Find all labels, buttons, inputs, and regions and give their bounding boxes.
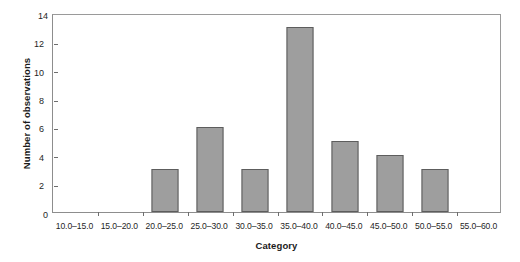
y-axis-tick-label: 4 [39,153,49,163]
y-axis-tick: 4 [39,148,53,166]
x-axis-tick-mark [143,212,144,216]
x-axis-tick-mark [278,212,279,216]
x-axis-tick-label: 20.0–25.0 [146,221,183,231]
bar [286,27,313,212]
y-axis-tick: 8 [39,91,53,109]
y-axis-tick-mark [54,72,58,73]
y-axis-tick-mark [54,44,58,45]
x-axis-tick-label: 40.0–45.0 [325,221,362,231]
x-axis-tick-label: 30.0–35.0 [235,221,272,231]
y-axis-tick-mark [54,129,58,130]
bar [197,127,224,212]
y-axis-tick: 12 [34,34,53,52]
plot-area: 02468101214 [52,14,501,213]
y-axis-tick: 10 [34,63,53,81]
x-axis-tick-mark [412,212,413,216]
bar [376,155,403,212]
x-axis-title: Category [52,240,501,251]
y-axis-tick: 14 [38,6,53,24]
y-axis-tick-mark [54,157,58,158]
x-axis-tick-label: 55.0–60.0 [460,221,497,231]
y-axis-tick-label: 8 [39,96,49,106]
y-axis-tick: 0 [43,205,53,223]
x-axis-tick-label: 25.0–30.0 [190,221,227,231]
y-axis-tick-label: 12 [34,39,49,49]
y-axis-tick-label: 2 [39,181,49,191]
x-axis-tick-label: 45.0–50.0 [370,221,407,231]
bars-layer [53,15,500,212]
y-axis-tick-label: 14 [38,11,53,21]
x-axis-tick-mark [367,212,368,216]
y-axis-title: Number of observations [21,34,32,194]
bar [421,169,448,212]
x-axis-tick-mark [457,212,458,216]
x-axis-tick-label: 10.0–15.0 [56,221,93,231]
x-axis-tick-label: 35.0–40.0 [280,221,317,231]
y-axis-tick-label: 10 [34,68,49,78]
x-axis-tick-label: 50.0–55.0 [415,221,452,231]
y-axis-tick-label: 6 [39,124,49,134]
y-axis-tick: 6 [39,120,53,138]
x-axis-tick-mark [188,212,189,216]
x-axis-tick-mark [233,212,234,216]
bar [331,141,358,212]
x-axis-tick-mark [98,212,99,216]
x-axis-tick-label: 15.0–20.0 [101,221,138,231]
y-axis-tick-label: 0 [43,210,53,220]
bar [152,169,179,212]
y-axis-tick: 2 [39,177,53,195]
x-axis-tick-mark [322,212,323,216]
bar [242,169,269,212]
histogram-chart: Number of observations 02468101214 10.0–… [0,0,520,262]
y-axis-tick-mark [54,186,58,187]
y-axis-tick-mark [54,101,58,102]
